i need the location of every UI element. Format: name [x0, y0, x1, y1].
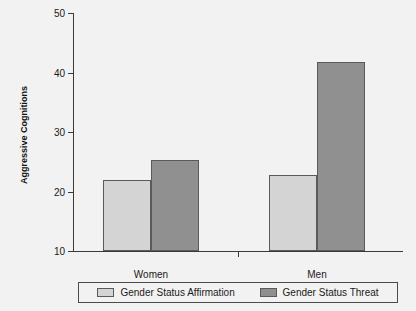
y-tick-label-50: 50	[54, 8, 65, 19]
plot-area: 50 40 30 20 10 Women Men	[73, 13, 403, 251]
legend-item-gender-status-affirmation[interactable]: Gender Status Affirmation	[97, 287, 234, 298]
chart-legend: Gender Status Affirmation Gender Status …	[78, 282, 398, 303]
bar-men-gender-status-threat	[317, 62, 365, 252]
legend-swatch-icon-affirmation	[97, 288, 114, 297]
y-axis-line	[73, 13, 74, 251]
legend-label-threat: Gender Status Threat	[283, 287, 379, 298]
bar-chart-figure: Aggressive Cognitions 50 40 30 20 10	[0, 0, 416, 311]
y-tick-mark-30	[68, 132, 73, 133]
bar-women-gender-status-threat	[151, 160, 199, 251]
y-tick-label-40: 40	[54, 67, 65, 78]
legend-label-affirmation: Gender Status Affirmation	[120, 287, 234, 298]
y-tick-mark-20	[68, 192, 73, 193]
y-tick-label-10: 10	[54, 246, 65, 257]
y-tick-mark-50	[68, 13, 73, 14]
legend-swatch-icon-threat	[260, 288, 277, 297]
y-axis-title-text: Aggressive Cognitions	[19, 86, 29, 184]
y-tick-label-20: 20	[54, 186, 65, 197]
y-tick-label-30: 30	[54, 127, 65, 138]
bar-women-gender-status-affirmation	[103, 180, 151, 252]
y-tick-mark-40	[68, 73, 73, 74]
x-axis-group-separator-tick	[238, 251, 239, 257]
x-axis-category-label-men: Men	[307, 269, 326, 280]
y-tick-mark-10	[68, 251, 73, 252]
x-axis-category-label-women: Women	[134, 269, 168, 280]
legend-item-gender-status-threat[interactable]: Gender Status Threat	[260, 287, 379, 298]
bar-men-gender-status-affirmation	[269, 175, 317, 251]
y-axis-title: Aggressive Cognitions	[14, 0, 34, 270]
